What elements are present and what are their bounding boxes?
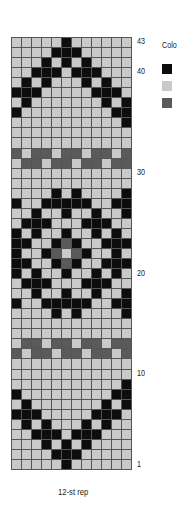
chart-cell bbox=[62, 279, 71, 288]
chart-cell bbox=[102, 48, 111, 57]
chart-cell bbox=[82, 108, 91, 117]
chart-cell bbox=[62, 199, 71, 208]
chart-cell bbox=[12, 128, 21, 137]
chart-cell bbox=[82, 159, 91, 168]
chart-cell bbox=[112, 58, 121, 67]
chart-cell bbox=[62, 299, 71, 308]
chart-cell bbox=[102, 58, 111, 67]
chart-cell bbox=[112, 279, 121, 288]
chart-cell bbox=[92, 78, 101, 87]
chart-cell bbox=[82, 289, 91, 298]
chart-cell bbox=[12, 269, 21, 278]
chart-cell bbox=[92, 460, 101, 469]
chart-cell bbox=[22, 189, 31, 198]
chart-cell bbox=[92, 128, 101, 137]
chart-cell bbox=[122, 239, 131, 248]
chart-cell bbox=[92, 189, 101, 198]
chart-cell bbox=[112, 450, 121, 459]
chart-cell bbox=[82, 380, 91, 389]
chart-cell bbox=[62, 239, 71, 248]
chart-cell bbox=[112, 209, 121, 218]
chart-cell bbox=[82, 88, 91, 97]
chart-cell bbox=[82, 299, 91, 308]
chart-cell bbox=[82, 149, 91, 158]
chart-cell bbox=[72, 179, 81, 188]
chart-cell bbox=[52, 380, 61, 389]
chart-cell bbox=[122, 420, 131, 429]
chart-cell bbox=[122, 108, 131, 117]
chart-cell bbox=[112, 98, 121, 107]
chart-cell bbox=[92, 380, 101, 389]
chart-cell bbox=[122, 440, 131, 449]
chart-cell bbox=[52, 38, 61, 47]
chart-cell bbox=[92, 149, 101, 158]
chart-cell bbox=[42, 38, 51, 47]
chart-cell bbox=[122, 279, 131, 288]
chart-cell bbox=[62, 410, 71, 419]
chart-cell bbox=[52, 179, 61, 188]
chart-cell bbox=[92, 339, 101, 348]
chart-cell bbox=[102, 159, 111, 168]
chart-cell bbox=[22, 58, 31, 67]
chart-cell bbox=[22, 460, 31, 469]
chart-cell bbox=[122, 219, 131, 228]
chart-cell bbox=[22, 249, 31, 258]
chart-cell bbox=[42, 329, 51, 338]
chart-cell bbox=[72, 390, 81, 399]
chart-cell bbox=[82, 339, 91, 348]
chart-cell bbox=[32, 289, 41, 298]
chart-cell bbox=[92, 450, 101, 459]
chart-cell bbox=[102, 249, 111, 258]
chart-cell bbox=[62, 339, 71, 348]
chart-cell bbox=[42, 209, 51, 218]
chart-cell bbox=[22, 349, 31, 358]
chart-cell bbox=[102, 390, 111, 399]
chart-cell bbox=[52, 420, 61, 429]
chart-cell bbox=[52, 259, 61, 268]
chart-cell bbox=[42, 48, 51, 57]
chart-cell bbox=[92, 229, 101, 238]
chart-cell bbox=[102, 400, 111, 409]
chart-cell bbox=[22, 390, 31, 399]
chart-cell bbox=[122, 68, 131, 77]
chart-cell bbox=[122, 299, 131, 308]
chart-cell bbox=[52, 189, 61, 198]
chart-cell bbox=[42, 299, 51, 308]
chart-cell bbox=[122, 58, 131, 67]
chart-cell bbox=[82, 359, 91, 368]
chart-cell bbox=[42, 450, 51, 459]
chart-cell bbox=[32, 450, 41, 459]
chart-cell bbox=[82, 370, 91, 379]
chart-cell bbox=[62, 229, 71, 238]
chart-cell bbox=[82, 128, 91, 137]
chart-cell bbox=[122, 98, 131, 107]
chart-cell bbox=[22, 229, 31, 238]
chart-cell bbox=[32, 370, 41, 379]
chart-cell bbox=[82, 179, 91, 188]
chart-cell bbox=[12, 249, 21, 258]
chart-cell bbox=[72, 169, 81, 178]
chart-cell bbox=[122, 400, 131, 409]
chart-cell bbox=[42, 269, 51, 278]
chart-cell bbox=[62, 370, 71, 379]
legend-swatch-light-gray bbox=[162, 81, 172, 91]
chart-cell bbox=[122, 189, 131, 198]
chart-cell bbox=[12, 299, 21, 308]
chart-cell bbox=[32, 440, 41, 449]
chart-cell bbox=[22, 68, 31, 77]
legend-title: Colo bbox=[162, 40, 177, 50]
chart-cell bbox=[62, 219, 71, 228]
chart-cell bbox=[32, 48, 41, 57]
chart-cell bbox=[62, 430, 71, 439]
chart-cell bbox=[82, 430, 91, 439]
chart-cell bbox=[92, 159, 101, 168]
chart-cell bbox=[72, 430, 81, 439]
chart-cell bbox=[92, 88, 101, 97]
chart-cell bbox=[102, 299, 111, 308]
chart-cell bbox=[82, 78, 91, 87]
chart-cell bbox=[72, 239, 81, 248]
chart-cell bbox=[22, 179, 31, 188]
chart-cell bbox=[72, 359, 81, 368]
chart-cell bbox=[62, 189, 71, 198]
chart-cell bbox=[42, 460, 51, 469]
